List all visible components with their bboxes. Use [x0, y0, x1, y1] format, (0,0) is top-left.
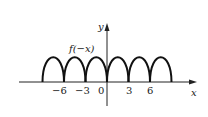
x-tick-label: −3 [75, 86, 90, 96]
curve-label: f(−x) [69, 44, 95, 54]
arch-segment [129, 57, 151, 82]
x-tick-label: 3 [126, 86, 132, 96]
graph-canvas [0, 0, 208, 117]
arch-segment [150, 57, 172, 82]
x-tick-label: −6 [52, 86, 67, 96]
function-graph: y f(−x) x −6 −3 0 3 6 [0, 0, 208, 117]
arch-segment [43, 57, 65, 82]
x-axis-arrow-icon [189, 80, 197, 85]
y-axis-label: y [98, 22, 104, 32]
x-tick-label: 0 [98, 86, 104, 96]
x-tick-label: 6 [147, 86, 153, 96]
arch-segment [86, 57, 108, 82]
arch-segment [64, 57, 86, 82]
arch-segment [107, 57, 129, 82]
x-axis-label: x [191, 88, 197, 98]
y-axis-arrow-icon [105, 23, 110, 31]
